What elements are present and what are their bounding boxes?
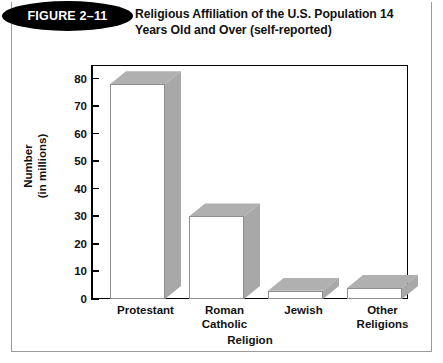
bar-front-face [347,288,402,299]
y-tick-label: 20 [61,237,87,251]
y-tick-mark [91,188,99,190]
y-tick-label: 70 [61,99,87,113]
y-tick: 30 [55,209,99,223]
y-tick: 40 [55,182,99,196]
y-tick: 60 [55,127,99,141]
y-axis-title: Number (in millions) [21,111,49,221]
bar-front-face [189,216,244,299]
y-tick-mark [91,243,99,245]
y-tick-mark [91,78,99,80]
y-tick-mark [91,160,99,162]
y-tick-mark [91,270,99,272]
y-tick-mark [91,133,99,135]
y-tick: 80 [55,72,99,86]
bar-front-face [110,84,165,299]
y-tick: 50 [55,154,99,168]
y-axis-title-line-1: Number [21,111,35,221]
y-tick-label: 80 [61,72,87,86]
y-tick: 10 [55,264,99,278]
y-tick-mark [91,298,99,300]
y-axis-title-line-2: (in millions) [35,111,49,221]
y-tick-label: 10 [61,264,87,278]
bar-chart: 01020304050607080 ProtestantRomanCatholi… [0,0,443,363]
x-label-other-religions: OtherReligions [333,303,433,331]
y-tick-label: 50 [61,154,87,168]
x-label-line: Religions [333,317,433,331]
y-tick-label: 40 [61,182,87,196]
y-tick: 70 [55,99,99,113]
y-tick: 20 [55,237,99,251]
x-axis-title: Religion [92,334,408,346]
x-label-line: Catholic [175,317,275,331]
y-tick-label: 30 [61,209,87,223]
y-tick-label: 60 [61,127,87,141]
y-tick-label: 0 [61,292,87,306]
bar-side-face [244,203,260,299]
bar-side-face [165,71,181,299]
figure-number-badge: FIGURE 2–11 [2,1,133,31]
y-tick-mark [91,215,99,217]
y-tick: 0 [55,292,99,306]
bar-front-face [268,291,323,299]
x-label-line: Other [333,303,433,317]
y-tick-mark [91,105,99,107]
